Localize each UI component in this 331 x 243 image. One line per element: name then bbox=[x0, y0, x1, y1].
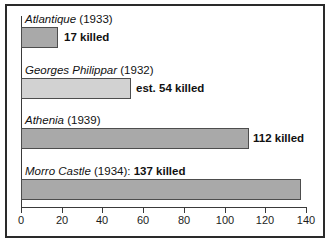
x-axis-tick-120 bbox=[265, 208, 266, 213]
bar-label-morro-castle: Morro Castle (1934): 137 killed bbox=[25, 165, 185, 178]
bar-morro-castle[interactable] bbox=[21, 179, 301, 200]
x-axis-label-60: 60 bbox=[123, 214, 163, 227]
x-axis-label-140: 140 bbox=[286, 214, 326, 227]
ship-name-atlantique: Atlantique bbox=[25, 13, 76, 25]
bar-athenia[interactable] bbox=[21, 128, 249, 149]
bar-value-morro-castle: 137 killed bbox=[134, 165, 186, 177]
x-axis-tick-40 bbox=[102, 208, 103, 213]
bar-value-georges-philippar: est. 54 killed bbox=[136, 82, 204, 95]
bar-value-athenia: 112 killed bbox=[253, 132, 304, 145]
x-axis-label-120: 120 bbox=[245, 214, 285, 227]
x-axis-tick-100 bbox=[225, 208, 226, 213]
bar-chart: 0 20 40 60 80 100 120 140 Atlantique (19… bbox=[0, 0, 331, 243]
bar-label-athenia: Athenia (1939) bbox=[25, 114, 100, 127]
bar-label-georges-philippar: Georges Philippar (1932) bbox=[25, 64, 154, 77]
x-axis-tick-80 bbox=[184, 208, 185, 213]
chart-screenshot: 0 20 40 60 80 100 120 140 Atlantique (19… bbox=[0, 0, 331, 243]
ship-name-morro-castle: Morro Castle bbox=[25, 165, 91, 177]
ship-name-athenia: Athenia bbox=[25, 114, 64, 126]
x-axis-label-100: 100 bbox=[205, 214, 245, 227]
x-axis-tick-0 bbox=[21, 208, 22, 213]
bar-value-atlantique: 17 killed bbox=[64, 31, 109, 44]
x-axis-label-0: 0 bbox=[1, 214, 41, 227]
x-axis-label-20: 20 bbox=[42, 214, 82, 227]
ship-year-morro-castle: (1934): bbox=[94, 165, 130, 177]
x-axis-tick-20 bbox=[62, 208, 63, 213]
ship-year-atlantique: (1933) bbox=[79, 13, 112, 25]
x-axis-tick-60 bbox=[143, 208, 144, 213]
bar-atlantique[interactable] bbox=[21, 27, 58, 48]
x-axis-label-40: 40 bbox=[82, 214, 122, 227]
ship-name-georges-philippar: Georges Philippar bbox=[25, 64, 117, 76]
bar-label-atlantique: Atlantique (1933) bbox=[25, 13, 113, 26]
ship-year-athenia: (1939) bbox=[67, 114, 100, 126]
x-axis-tick-140 bbox=[306, 208, 307, 213]
ship-year-georges-philippar: (1932) bbox=[120, 64, 153, 76]
bar-georges-philippar[interactable] bbox=[21, 78, 131, 99]
x-axis-label-80: 80 bbox=[164, 214, 204, 227]
